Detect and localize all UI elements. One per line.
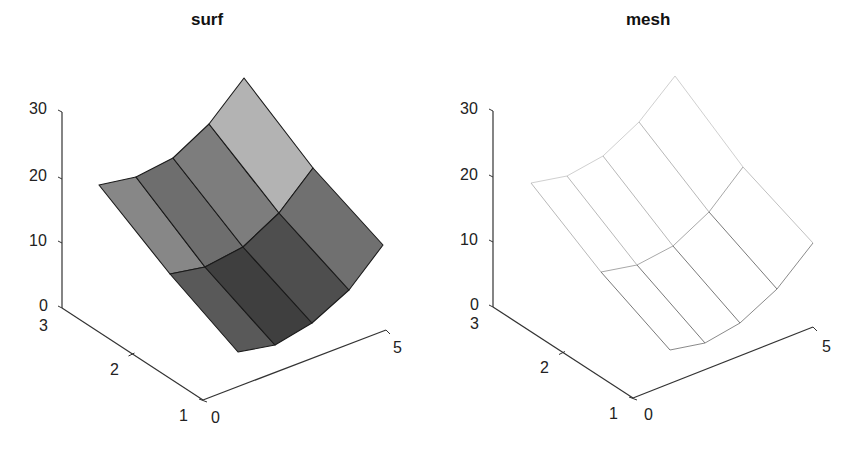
plots-canvas [0, 0, 850, 456]
surf-x-tick-label: 5 [393, 340, 402, 356]
mesh-line [709, 212, 777, 289]
mesh-line [740, 289, 777, 323]
surf-y-tick-label: 1 [179, 408, 188, 424]
surf-z-tick-label: 10 [29, 233, 47, 249]
surf-z-tick-label: 30 [29, 101, 47, 117]
mesh-line [705, 323, 740, 343]
mesh-line [567, 176, 637, 265]
x-tick [813, 327, 817, 331]
surf-y-tick-label: 3 [39, 318, 48, 334]
surf-x-tick-label: 0 [211, 410, 220, 426]
mesh-z-tick-label: 30 [460, 101, 478, 117]
mesh-line [777, 243, 813, 289]
mesh-line [670, 343, 705, 350]
mesh-line [673, 212, 709, 246]
mesh-line [531, 183, 601, 272]
mesh-line [709, 167, 743, 212]
mesh-z-tick-label: 10 [460, 232, 478, 248]
mesh-line [639, 76, 675, 122]
surf-z-tick-label: 20 [29, 168, 47, 184]
mesh-line [675, 76, 743, 167]
mesh-y-tick-label: 2 [540, 360, 549, 376]
mesh-line [603, 156, 673, 246]
mesh-line [637, 265, 705, 343]
mesh-y-tick-label: 3 [470, 316, 479, 332]
mesh-line [743, 167, 813, 243]
mesh-y-tick-label: 0 [644, 407, 653, 423]
surf-y-tick-label: 2 [110, 362, 119, 378]
mesh-y-tick-label: 1 [609, 406, 618, 422]
surf-z-tick-label: 0 [39, 298, 48, 314]
mesh-line [601, 265, 637, 272]
mesh-z-tick-label: 0 [470, 297, 479, 313]
x-axis-line [633, 327, 813, 398]
mesh-line [531, 176, 567, 183]
z-tick [58, 110, 62, 112]
x-tick [386, 330, 390, 334]
mesh-line [601, 272, 670, 350]
mesh-z-tick-label: 20 [460, 167, 478, 183]
mesh-line [603, 122, 639, 156]
mesh-line [567, 156, 603, 176]
mesh-line [639, 122, 709, 212]
mesh-line [673, 246, 740, 323]
mesh-x-tick-label: 5 [822, 339, 831, 355]
z-tick [489, 109, 493, 111]
mesh-line [637, 246, 673, 265]
